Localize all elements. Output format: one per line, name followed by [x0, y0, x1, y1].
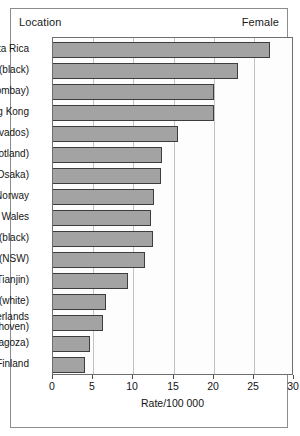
category-label: France (Calvados) [0, 128, 29, 139]
bar [52, 357, 85, 373]
bar [52, 252, 145, 268]
female-series-label: Female [242, 16, 279, 28]
gridline [254, 38, 255, 374]
category-label-line: Australia (NSW) [0, 254, 29, 265]
gridline [214, 38, 215, 374]
category-label-line: Norway [0, 191, 29, 202]
location-header-label: Location [19, 16, 61, 28]
x-tick-mark [92, 375, 93, 379]
category-label-line: Finland [0, 359, 29, 370]
category-label: Spain (Zaragoza) [0, 338, 29, 349]
plot-area [52, 37, 293, 375]
category-label: Norway [0, 191, 29, 202]
category-label-line: Japan (Osaka) [0, 170, 29, 181]
category-label: Hong Kong [0, 107, 29, 118]
category-label: Costa Rica [0, 44, 29, 55]
bar [52, 84, 214, 100]
x-axis-title: Rate/100 000 [52, 397, 293, 409]
category-label: Australia (NSW) [0, 254, 29, 265]
bar [52, 273, 128, 289]
bar [52, 42, 270, 58]
bar [52, 126, 178, 142]
category-label-line: Spain (Zaragoza) [0, 338, 29, 349]
x-tick-label: 25 [247, 380, 259, 392]
category-label: Finland [0, 359, 29, 370]
x-axis: Rate/100 000 051015202530 [52, 375, 293, 419]
category-label: Japan (Osaka) [0, 170, 29, 181]
bar [52, 105, 214, 121]
category-label: China (Tianjin) [0, 275, 29, 286]
category-label-line: USA (black) [0, 233, 29, 244]
category-label: UK (Scotland) [0, 149, 29, 160]
category-label: USA (black) [0, 233, 29, 244]
category-label-line: UK (Scotland) [0, 149, 29, 160]
chart-figure: Location Female Rate/100 000 05101520253… [10, 8, 288, 428]
bar [52, 231, 153, 247]
category-label: Netherlands(Eindhoven) [0, 312, 29, 333]
category-label-line: France (Calvados) [0, 128, 29, 139]
x-tick-mark [253, 375, 254, 379]
bar-chart: Rate/100 000 051015202530 Costa RicaBerm… [31, 35, 283, 419]
x-tick-mark [293, 375, 294, 379]
x-tick-label: 5 [89, 380, 95, 392]
category-label-line: India (Bombay) [0, 86, 29, 97]
category-label: Bermuda (black) [0, 65, 29, 76]
bar [52, 210, 151, 226]
category-label-line: USA (white) [0, 296, 29, 307]
x-tick-mark [173, 375, 174, 379]
bar [52, 63, 238, 79]
bar [52, 336, 90, 352]
x-tick-mark [52, 375, 53, 379]
x-tick-mark [132, 375, 133, 379]
category-label-line: Costa Rica [0, 44, 29, 55]
bar [52, 147, 162, 163]
category-label-line: China (Tianjin) [0, 275, 29, 286]
category-label-line: (Eindhoven) [0, 322, 29, 333]
category-label: USA (white) [0, 296, 29, 307]
category-label-line: Bermuda (black) [0, 65, 29, 76]
bar [52, 189, 154, 205]
x-tick-label: 10 [126, 380, 138, 392]
x-tick-label: 0 [49, 380, 55, 392]
x-tick-label: 30 [287, 380, 297, 392]
x-tick-label: 20 [207, 380, 219, 392]
bar [52, 315, 103, 331]
x-tick-label: 15 [167, 380, 179, 392]
bar [52, 294, 106, 310]
x-tick-mark [213, 375, 214, 379]
category-label: India (Bombay) [0, 86, 29, 97]
chart-header: Location Female [11, 9, 287, 35]
category-label: England and Wales [0, 212, 29, 223]
bar [52, 168, 161, 184]
category-label-line: England and Wales [0, 212, 29, 223]
category-label-line: Hong Kong [0, 107, 29, 118]
